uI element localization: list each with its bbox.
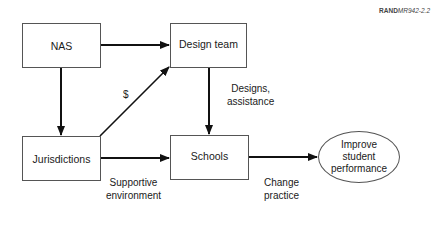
edge-jurisdictions-design-team [100, 67, 169, 136]
node-nas: NAS [22, 23, 101, 68]
node-jurisdictions: Jurisdictions [22, 136, 101, 181]
node-design-team: Design team [170, 23, 247, 68]
node-schools: Schools [170, 135, 249, 180]
label-designs-assistance: Designs, assistance [227, 83, 274, 108]
outcome-label: Improve student performance [327, 139, 391, 175]
label-supportive-environment: Supportive environment [106, 177, 161, 202]
label-change-practice: Change practice [264, 177, 299, 202]
label-money: $ [123, 89, 129, 102]
node-outcome: Improve student performance [318, 131, 400, 183]
